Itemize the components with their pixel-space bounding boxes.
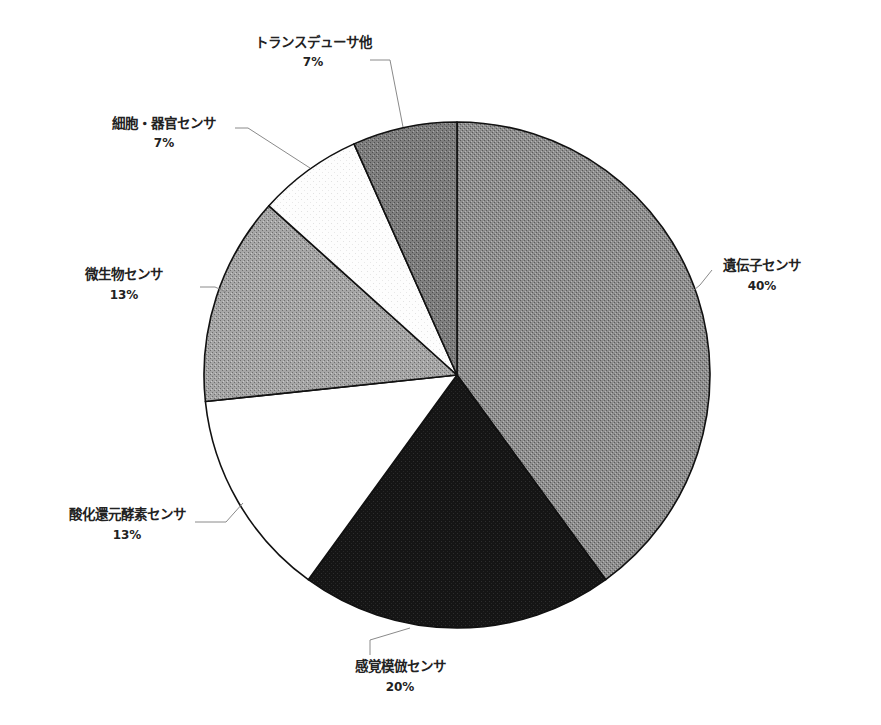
label-percent: 20% [386, 680, 415, 694]
label-percent: 40% [748, 279, 777, 293]
label-percent: 7% [154, 136, 174, 150]
label-name: 微生物センサ [84, 266, 163, 282]
leader-line [235, 128, 310, 168]
label-transducer: トランスデューサ他 7% [255, 34, 373, 69]
label-biseibutsu: 微生物センサ 13% [84, 266, 163, 302]
leader-line [370, 628, 410, 655]
pie-chart-svg: 遺伝子センサ 40% 感覚模倣センサ 20% 酸化還元酵素センサ 13% 微生物… [0, 0, 881, 725]
label-idenshi: 遺伝子センサ 40% [722, 257, 801, 293]
leader-line [195, 503, 243, 522]
label-sanka: 酸化還元酵素センサ 13% [69, 506, 186, 542]
leader-line [370, 60, 403, 127]
leader-line [694, 270, 712, 290]
label-name: トランスデューサ他 [255, 34, 373, 50]
label-name: 感覚模倣センサ [355, 658, 446, 674]
pie-chart: 遺伝子センサ 40% 感覚模倣センサ 20% 酸化還元酵素センサ 13% 微生物… [0, 0, 881, 725]
label-percent: 7% [303, 55, 323, 69]
label-name: 酸化還元酵素センサ [69, 506, 186, 522]
label-kankaku: 感覚模倣センサ 20% [355, 658, 446, 694]
label-saibou: 細胞・器官センサ 7% [112, 115, 216, 150]
label-percent: 13% [113, 528, 142, 542]
label-percent: 13% [110, 288, 139, 302]
label-name: 細胞・器官センサ [112, 115, 216, 131]
label-name: 遺伝子センサ [722, 257, 801, 273]
pie-slices [204, 122, 710, 628]
